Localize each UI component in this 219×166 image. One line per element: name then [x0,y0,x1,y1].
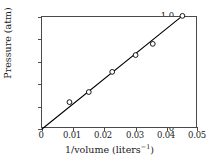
data-point [67,100,72,105]
data-plot [42,17,198,129]
data-point-markers [67,13,185,104]
chart-figure: Pressure (atm) 1.0 0.8 0.6 0.4 0.2 0 0 0… [0,0,219,166]
data-point [133,53,138,58]
data-point [110,69,115,74]
data-point [150,41,155,46]
y-axis-title: Pressure (atm) [3,0,13,98]
data-point [86,90,91,95]
x-axis-title-exponent: −1 [141,143,151,151]
plot-area [41,16,197,128]
x-axis-title: 1/volume (liters−1) [0,145,219,155]
x-axis-title-main: 1/volume (liters [65,144,141,155]
x-axis-title-end: ) [150,144,154,155]
x-tick-label-0.05: 0.05 [177,131,217,140]
data-point [180,13,185,18]
